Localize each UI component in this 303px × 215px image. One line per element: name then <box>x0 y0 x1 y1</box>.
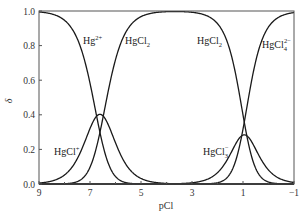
label-hgcl2-right: HgCl2 <box>197 35 222 48</box>
label-hgcl2-left: HgCl2 <box>125 35 150 48</box>
species-distribution-chart: 97531−1 0.00.20.40.60.81.0 pCl δ Hg2+ Hg… <box>0 0 303 215</box>
x-axis-label: pCl <box>159 200 174 211</box>
y-tick-label: 0.0 <box>23 180 35 190</box>
label-hg2plus: Hg2+ <box>83 34 102 46</box>
x-tick-label: 5 <box>139 188 144 198</box>
x-tick-label: 9 <box>37 188 42 198</box>
y-axis-label: δ <box>3 98 14 103</box>
x-tick-label: 3 <box>190 188 195 198</box>
curves-group <box>39 12 294 184</box>
y-tick-label: 0.8 <box>23 41 35 51</box>
label-hgcl3-minus: HgCl3− <box>203 144 229 159</box>
y-tick-label: 0.4 <box>23 110 35 120</box>
label-hgcl-plus: HgCl+ <box>54 145 80 157</box>
label-hgcl4-2minus: HgCl42− <box>262 37 291 52</box>
y-tick-label: 0.2 <box>23 145 35 155</box>
y-tick-label: 0.6 <box>23 76 35 86</box>
x-tick-label: 7 <box>88 188 93 198</box>
x-tick-label: 1 <box>241 188 246 198</box>
y-tick-label: 1.0 <box>23 7 35 17</box>
x-tick-label: −1 <box>289 188 299 198</box>
